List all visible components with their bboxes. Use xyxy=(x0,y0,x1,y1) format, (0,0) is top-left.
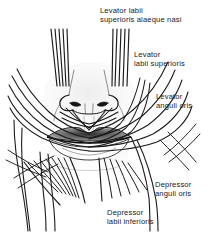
label-depressor-anguli-oris: Depressor anguli oris xyxy=(155,180,191,198)
anatomical-figure: Levator labii superioris alaeque nasi Le… xyxy=(0,0,219,233)
label-depressor-labii-inferioris: Depressor labii inferioris xyxy=(107,208,154,226)
label-levator-labii-superioris-alaeque-nasi: Levator labii superioris alaeque nasi xyxy=(100,6,182,24)
label-levator-anguli-oris: Levator anguli oris xyxy=(156,92,192,110)
label-levator-labii-superioris: Levator labii superioris xyxy=(134,50,185,68)
